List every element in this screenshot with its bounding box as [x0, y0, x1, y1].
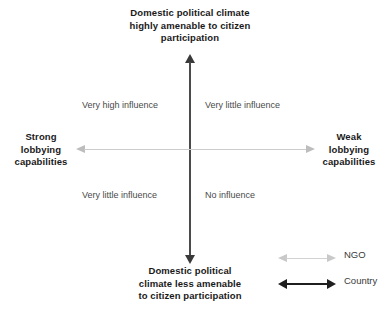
quadrant-label-top-left: Very high influence	[82, 100, 158, 110]
vertical-axis-top-label-line2: highly amenable to citizen	[95, 20, 285, 33]
vertical-axis-line	[189, 62, 191, 258]
quadrant-label-bottom-left: Very little influence	[82, 190, 157, 200]
quadrant-diagram: Domestic political climate highly amenab…	[0, 0, 385, 314]
horizontal-axis-right-arrow-icon	[306, 145, 315, 153]
vertical-axis-top-label-line1: Domestic political climate	[95, 7, 285, 20]
horizontal-axis-left-label-line1: Strong	[6, 131, 76, 144]
vertical-axis-top-label-line3: participation	[95, 32, 285, 45]
vertical-axis-bottom-label: Domestic political climate less amenable…	[95, 265, 285, 303]
horizontal-axis-left-label: Strong lobbying capabilities	[6, 131, 76, 169]
quadrant-label-top-right: Very little influence	[205, 100, 280, 110]
horizontal-axis-right-label-line3: capabilities	[316, 156, 382, 169]
horizontal-axis-right-label-line2: lobbying	[316, 144, 382, 157]
legend-ngo-line	[286, 258, 328, 259]
horizontal-axis-line	[84, 149, 308, 150]
horizontal-axis-left-label-line3: capabilities	[6, 156, 76, 169]
horizontal-axis-right-label: Weak lobbying capabilities	[316, 131, 382, 169]
vertical-axis-top-label: Domestic political climate highly amenab…	[95, 7, 285, 45]
legend-country-line	[286, 283, 328, 285]
vertical-axis-down-arrow-icon	[185, 255, 195, 264]
legend-country-right-arrowhead-icon	[327, 279, 336, 289]
legend-ngo-double-arrow-icon	[278, 254, 336, 263]
legend-country-double-arrow-icon	[278, 280, 336, 289]
vertical-axis-bottom-label-line3: to citizen participation	[95, 290, 285, 303]
quadrant-label-bottom-right: No influence	[205, 190, 255, 200]
legend-country-label: Country	[344, 275, 377, 286]
legend-ngo-label: NGO	[344, 249, 366, 260]
horizontal-axis-left-label-line2: lobbying	[6, 144, 76, 157]
horizontal-axis-right-label-line1: Weak	[316, 131, 382, 144]
vertical-axis-bottom-label-line2: climate less amenable	[95, 278, 285, 291]
legend-ngo-right-arrowhead-icon	[327, 254, 336, 262]
vertical-axis-bottom-label-line1: Domestic political	[95, 265, 285, 278]
